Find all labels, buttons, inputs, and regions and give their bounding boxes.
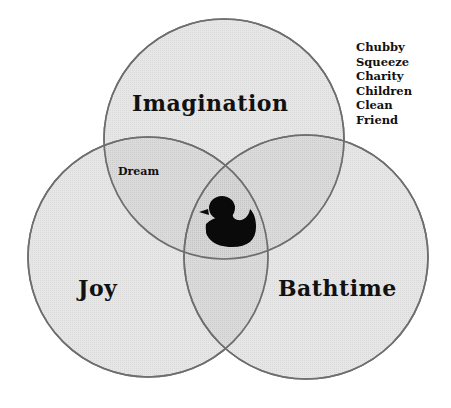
- label-joy: Joy: [78, 275, 117, 301]
- word-squeeze: Squeeze: [356, 55, 412, 70]
- label-bathtime: Bathtime: [278, 275, 397, 301]
- label-dream: Dream: [118, 165, 159, 178]
- word-children: Children: [356, 84, 412, 99]
- circle-bathtime: [184, 135, 428, 379]
- word-list: Chubby Squeeze Charity Children Clean Fr…: [356, 40, 412, 127]
- word-charity: Charity: [356, 69, 412, 84]
- word-friend: Friend: [356, 113, 412, 128]
- word-clean: Clean: [356, 98, 412, 113]
- word-chubby: Chubby: [356, 40, 412, 55]
- label-imagination: Imagination: [132, 90, 289, 116]
